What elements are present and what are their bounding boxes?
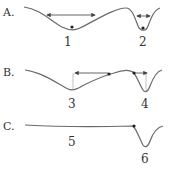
well-number-5: 5 [68, 135, 76, 149]
panel-label-a: A. [2, 6, 14, 19]
panel-c: C. 5 6 [3, 120, 163, 166]
energy-landscape-diagram: A. 1 2 B. 3 4 C. 5 6 [0, 0, 173, 173]
well-number-3: 3 [68, 97, 76, 111]
panel-b: B. 3 4 [3, 66, 162, 111]
curve-a [24, 7, 160, 30]
ball-well-3 [107, 72, 110, 75]
ball-well-1 [70, 25, 73, 28]
curve-c [25, 125, 163, 147]
ball-well-2 [141, 26, 144, 29]
well-number-4: 4 [141, 97, 149, 111]
panel-label-c: C. [3, 120, 15, 133]
well-number-6: 6 [141, 152, 149, 166]
well-number-1: 1 [64, 35, 72, 49]
ball-well-6 [132, 124, 135, 127]
panel-a: A. 1 2 [2, 6, 160, 49]
ball-well-4 [132, 71, 135, 74]
panel-label-b: B. [3, 66, 15, 79]
well-number-2: 2 [139, 35, 147, 49]
